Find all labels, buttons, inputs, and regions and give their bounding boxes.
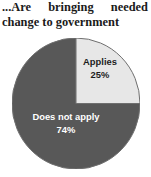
slice-label-does-not-apply-name: Does not apply <box>32 111 99 122</box>
slice-label-does-not-apply-value: 74% <box>16 124 116 135</box>
title-line-1: ...Are bringing needed <box>2 0 148 15</box>
slice-label-does-not-apply: Does not apply 74% <box>16 111 116 135</box>
slice-label-applies-name: Applies <box>83 56 117 67</box>
slice-label-applies: Applies 25% <box>72 56 128 80</box>
page-title: ...Are bringing needed change to governm… <box>2 0 151 30</box>
pie-chart-figure: ...Are bringing needed change to governm… <box>0 0 151 177</box>
title-line-2: change to government <box>2 15 151 30</box>
slice-label-applies-value: 25% <box>72 69 128 80</box>
